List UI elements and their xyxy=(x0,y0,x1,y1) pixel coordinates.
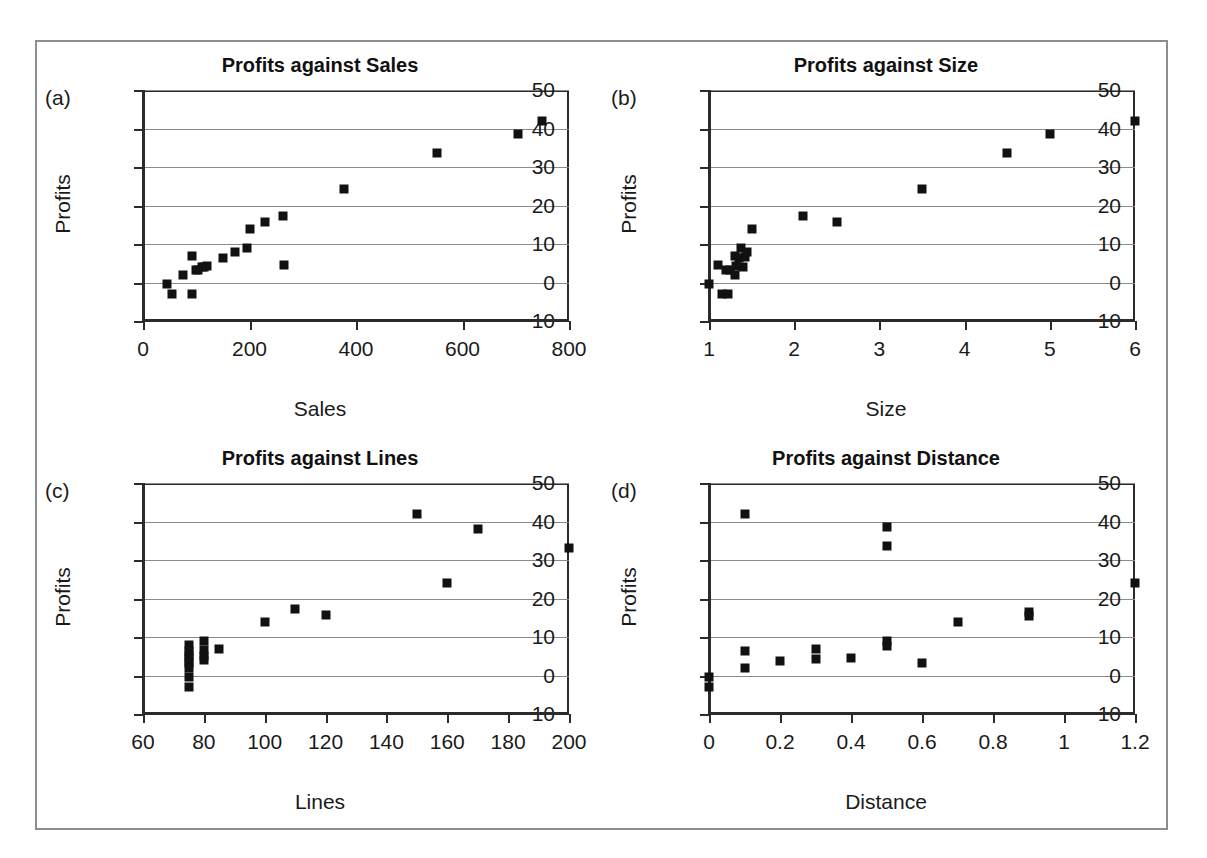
y-tick-label-c: 10 xyxy=(532,625,555,649)
gridline-a xyxy=(143,206,569,207)
x-tick-d xyxy=(1064,714,1066,723)
y-tick-label-b: 40 xyxy=(1098,117,1121,141)
x-tick-label-c: 120 xyxy=(308,730,343,754)
panel-tag-a: (a) xyxy=(45,86,71,110)
x-tick-d xyxy=(780,714,782,723)
panel-tag-c: (c) xyxy=(45,479,70,503)
gridline-b xyxy=(709,129,1135,130)
data-point xyxy=(811,644,820,653)
x-tick-label-b: 2 xyxy=(788,337,800,361)
data-point xyxy=(705,683,714,692)
gridline-d xyxy=(709,483,1135,484)
gridline-a xyxy=(143,129,569,130)
y-tick-c xyxy=(134,714,143,716)
x-tick-b xyxy=(794,321,796,330)
x-tick-d xyxy=(709,714,711,723)
x-tick-label-c: 180 xyxy=(491,730,526,754)
gridline-b xyxy=(709,90,1135,91)
x-tick-c xyxy=(326,714,328,723)
data-point xyxy=(739,262,748,271)
panel-title-b: Profits against Size xyxy=(603,54,1169,77)
x-tick-label-a: 400 xyxy=(338,337,373,361)
data-point xyxy=(1131,579,1140,588)
gridline-b xyxy=(709,206,1135,207)
data-point xyxy=(199,636,208,645)
data-point xyxy=(245,224,254,233)
data-point xyxy=(1024,612,1033,621)
y-tick-label-a: 50 xyxy=(532,78,555,102)
plot-area-a: −10010203040500200400600800 xyxy=(143,90,569,321)
y-tick-label-a: 20 xyxy=(532,194,555,218)
data-point xyxy=(162,280,171,289)
x-tick-a xyxy=(250,321,252,330)
x-tick-a xyxy=(143,321,145,330)
x-tick-label-a: 0 xyxy=(137,337,149,361)
y-tick-label-b: 10 xyxy=(1098,232,1121,256)
chart-panel-a: (a) Profits against Sales Profits −10010… xyxy=(37,42,603,435)
y-tick-label-d: 10 xyxy=(1098,625,1121,649)
gridline-b xyxy=(709,244,1135,245)
data-point xyxy=(740,646,749,655)
data-point xyxy=(1131,116,1140,125)
y-axis-label-a: Profits xyxy=(51,134,75,274)
data-point xyxy=(199,655,208,664)
x-tick-label-d: 0.2 xyxy=(765,730,794,754)
data-point xyxy=(184,663,193,672)
chart-panel-c: (c) Profits against Lines Profits −10010… xyxy=(37,435,603,828)
y-tick-label-a: 0 xyxy=(543,271,555,295)
data-point xyxy=(798,211,807,220)
data-point xyxy=(184,683,193,692)
y-axis-line-c xyxy=(142,483,145,714)
x-tick-a xyxy=(569,321,571,330)
x-tick-label-c: 60 xyxy=(131,730,154,754)
chart-panel-b: (b) Profits against Size Profits −100102… xyxy=(603,42,1169,435)
x-tick-c xyxy=(508,714,510,723)
y-tick-label-c: 0 xyxy=(543,664,555,688)
x-axis-line-b xyxy=(709,319,1135,322)
data-point xyxy=(882,523,891,532)
gridline-a xyxy=(143,244,569,245)
x-tick-label-c: 200 xyxy=(551,730,586,754)
figure-frame: (a) Profits against Sales Profits −10010… xyxy=(35,40,1168,830)
data-point xyxy=(514,130,523,139)
x-tick-c xyxy=(386,714,388,723)
x-tick-a xyxy=(463,321,465,330)
data-point xyxy=(291,604,300,613)
data-point xyxy=(432,149,441,158)
y-axis-label-d: Profits xyxy=(617,527,641,667)
x-tick-c xyxy=(447,714,449,723)
gridline-a xyxy=(143,167,569,168)
data-point xyxy=(953,617,962,626)
y-axis-label-c: Profits xyxy=(51,527,75,667)
gridline-d xyxy=(709,560,1135,561)
data-point xyxy=(705,673,714,682)
y-tick-label-b: 0 xyxy=(1109,271,1121,295)
data-point xyxy=(215,644,224,653)
gridline-d xyxy=(709,522,1135,523)
gridline-d xyxy=(709,637,1135,638)
data-point xyxy=(747,224,756,233)
x-axis-label-b: Size xyxy=(603,397,1169,421)
data-point xyxy=(242,243,251,252)
y-tick-label-d: 40 xyxy=(1098,510,1121,534)
panel-title-a: Profits against Sales xyxy=(37,54,603,77)
x-tick-d xyxy=(851,714,853,723)
gridline-a xyxy=(143,283,569,284)
y-tick-label-a: 30 xyxy=(532,155,555,179)
x-tick-label-b: 3 xyxy=(874,337,886,361)
y-tick-label-d: 30 xyxy=(1098,548,1121,572)
x-tick-b xyxy=(1135,321,1137,330)
gridline-b xyxy=(709,283,1135,284)
x-tick-label-d: 0.6 xyxy=(907,730,936,754)
x-tick-c xyxy=(204,714,206,723)
data-point xyxy=(280,261,289,270)
data-point xyxy=(260,617,269,626)
x-tick-d xyxy=(993,714,995,723)
data-point xyxy=(882,542,891,551)
x-tick-b xyxy=(965,321,967,330)
data-point xyxy=(278,211,287,220)
x-tick-label-d: 0 xyxy=(703,730,715,754)
x-tick-label-c: 80 xyxy=(192,730,215,754)
x-tick-label-c: 160 xyxy=(430,730,465,754)
x-tick-a xyxy=(356,321,358,330)
